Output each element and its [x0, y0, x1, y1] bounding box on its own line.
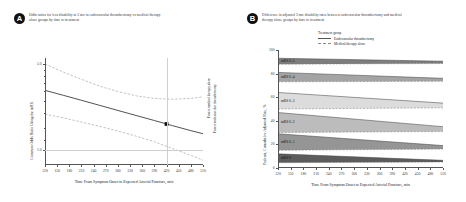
x-tick	[191, 165, 192, 167]
legend-item-label: Endovascular thrombectomy	[334, 37, 374, 41]
x-tick-label: 270	[103, 169, 109, 173]
legend-item-0: Endovascular thrombectomy	[318, 37, 374, 41]
panel-b-area-svg	[278, 50, 443, 168]
panel-a: A Odds ratios for less disability at 3 m…	[0, 0, 233, 202]
panel-a-header: A Odds ratios for less disability at 3 m…	[14, 13, 169, 24]
x-tick-label: 510	[440, 172, 446, 176]
x-tick	[179, 165, 180, 167]
panel-a-x-axis-title: Time From Symptom Onset to Expected Arte…	[45, 180, 203, 184]
x-tick-label: 180	[301, 172, 307, 176]
y-minor-tick	[44, 101, 46, 102]
y-tick	[276, 74, 278, 75]
x-tick-label: 450	[176, 169, 182, 173]
reference-line-or-1	[45, 150, 203, 151]
x-tick-label: 300	[351, 172, 357, 176]
y-tick-label: 20	[271, 142, 275, 146]
panel-b-band-1	[278, 72, 443, 81]
x-tick-label: 150	[54, 169, 60, 173]
panel-b-band-4	[278, 134, 443, 151]
y-tick-label: 40	[271, 119, 275, 123]
x-tick-label: 300	[115, 169, 121, 173]
panel-b-band-label-1: mRS 0–4	[281, 75, 294, 79]
x-tick	[154, 165, 155, 167]
panel-b-band-2	[278, 92, 443, 109]
legend-swatch-solid	[318, 38, 331, 39]
x-tick	[380, 168, 381, 170]
x-tick-label: 210	[79, 169, 85, 173]
panel-b-title: Difference in adjusted 3-mo disability r…	[262, 13, 402, 22]
x-tick-label: 330	[127, 169, 133, 173]
x-tick	[430, 168, 431, 170]
x-tick	[94, 165, 95, 167]
y-tick-label: 0	[273, 166, 275, 170]
figure-container: A Odds ratios for less disability at 3 m…	[0, 0, 466, 202]
panel-a-plot-area: 1.05.0 120150180210240270300330360390420…	[45, 58, 203, 165]
panel-b-y-axis-title: Patients, Cumulative Adjusted Rate, %	[263, 104, 267, 165]
x-tick-label: 330	[364, 172, 370, 176]
x-tick	[278, 168, 279, 170]
y-minor-tick	[44, 113, 46, 114]
x-tick-label: 450	[415, 172, 421, 176]
legend-title: Treatment group	[318, 31, 374, 35]
x-tick-label: 120	[275, 172, 281, 176]
panel-b-band-label-2: mRS 0–3	[281, 99, 294, 103]
x-tick-label: 360	[139, 169, 145, 173]
x-tick	[291, 168, 292, 170]
x-tick-label: 360	[377, 172, 383, 176]
panel-b-band-5	[278, 154, 443, 163]
y-minor-tick	[44, 128, 46, 129]
legend-item-1: Medical therapy alone	[318, 42, 374, 46]
x-tick	[316, 168, 317, 170]
y-tick-label: 100	[269, 48, 275, 52]
y-minor-tick	[44, 91, 46, 92]
y-minor-tick	[44, 70, 46, 71]
y-tick-label: 80	[271, 72, 275, 76]
panel-b-band-3	[278, 113, 443, 133]
x-tick	[341, 168, 342, 170]
legend: Treatment group Endovascular thrombectom…	[318, 31, 374, 46]
panel-b-badge: B	[247, 13, 258, 24]
x-tick-label: 390	[152, 169, 158, 173]
panel-a-series-2	[45, 114, 203, 160]
panel-a-title: Odds ratios for less disability at 3 mo …	[29, 13, 169, 22]
x-tick	[392, 168, 393, 170]
x-tick-label: 270	[339, 172, 345, 176]
panel-b-band-label-3: mRS 0–2	[281, 120, 294, 124]
x-tick	[81, 165, 82, 167]
x-tick	[130, 165, 131, 167]
y-minor-tick	[44, 76, 46, 77]
y-tick	[276, 144, 278, 145]
x-tick-label: 210	[313, 172, 319, 176]
x-tick	[106, 165, 107, 167]
panel-a-series-0	[45, 90, 203, 133]
y-tick	[276, 121, 278, 122]
y-tick	[276, 50, 278, 51]
panel-a-note-favors-evt: Favors endovascular thrombectomy	[213, 84, 217, 133]
y-tick-label: 1.0	[37, 148, 42, 152]
legend-swatch-dashed	[318, 43, 331, 44]
x-tick	[443, 168, 444, 170]
panel-b-header: B Difference in adjusted 3-mo disability…	[247, 13, 402, 24]
x-tick	[57, 165, 58, 167]
x-tick	[118, 165, 119, 167]
panel-a-badge: A	[14, 13, 25, 24]
y-tick	[43, 64, 45, 65]
panel-b-band-label-0: mRS 0–5	[281, 59, 294, 63]
y-tick	[276, 97, 278, 98]
panel-b-band-label-5: mRS 0	[281, 156, 291, 160]
panel-b-band-label-4: mRS 0–1	[281, 140, 294, 144]
x-tick-label: 180	[67, 169, 73, 173]
reference-line-time	[167, 58, 168, 165]
legend-item-label: Medical therapy alone	[334, 42, 365, 46]
x-tick-label: 150	[288, 172, 294, 176]
x-tick-label: 420	[402, 172, 408, 176]
panel-a-series-1	[45, 64, 203, 99]
panel-a-note-favors-medical: Favors medical therapy alone	[207, 78, 211, 118]
x-tick	[303, 168, 304, 170]
x-tick-label: 240	[326, 172, 332, 176]
x-tick	[69, 165, 70, 167]
x-tick	[367, 168, 368, 170]
x-tick	[167, 165, 168, 167]
x-tick	[203, 165, 204, 167]
x-tick	[329, 168, 330, 170]
